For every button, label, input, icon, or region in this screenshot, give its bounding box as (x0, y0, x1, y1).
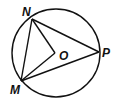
segment-MO (21, 53, 55, 81)
label-M: M (10, 83, 21, 97)
circle (12, 9, 100, 97)
label-P: P (102, 46, 111, 60)
segment-NM (21, 19, 32, 81)
label-N: N (22, 5, 31, 19)
circle-diagram: N M P O (0, 0, 116, 105)
label-O: O (59, 49, 69, 63)
